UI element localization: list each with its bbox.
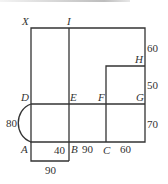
label-D: D	[20, 91, 29, 103]
label-B: B	[71, 143, 78, 155]
label-X: X	[21, 15, 30, 27]
measure-bc: 90	[82, 143, 94, 155]
label-C: C	[103, 144, 111, 156]
label-E: E	[69, 91, 77, 103]
measure-c-right: 60	[120, 143, 132, 155]
measure-ab-inner: 40	[54, 144, 66, 156]
measure-bottom-rect: 90	[45, 164, 57, 176]
arc-D-A	[18, 104, 31, 142]
label-G: G	[136, 91, 144, 103]
outer-boundary	[31, 28, 145, 142]
measure-right-middle: 50	[147, 79, 159, 91]
geometry-diagram: X I H D E F G A B C 60 50 70 80 40 90 60…	[0, 0, 168, 184]
label-F: F	[97, 91, 105, 103]
label-A: A	[20, 143, 28, 155]
measure-right-bottom: 70	[147, 118, 159, 130]
label-H: H	[134, 53, 144, 65]
measure-left-arc: 80	[6, 117, 18, 129]
measure-right-top: 60	[147, 42, 159, 54]
label-I: I	[66, 15, 72, 27]
